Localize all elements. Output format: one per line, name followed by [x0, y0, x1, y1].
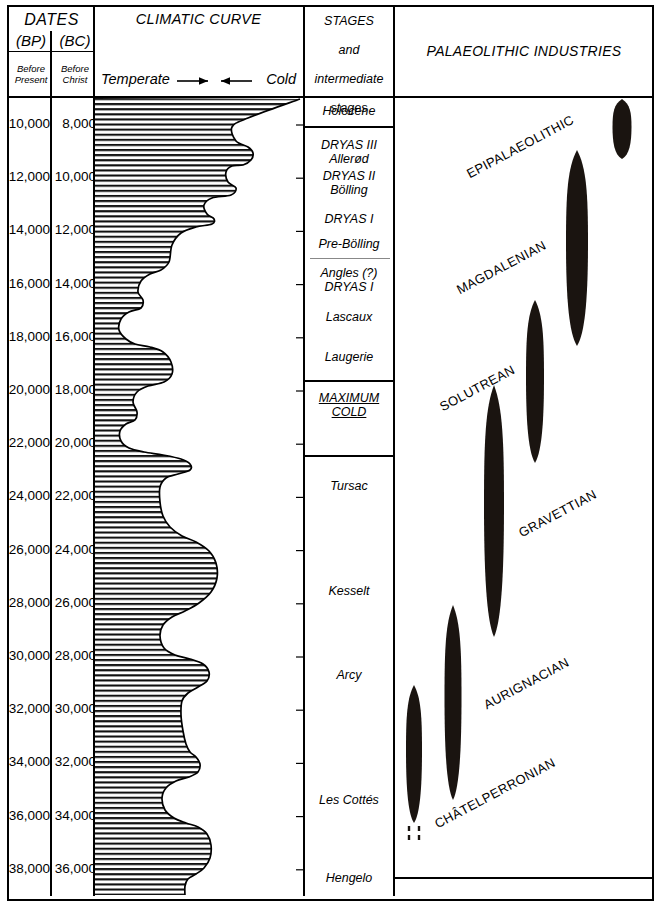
industry-spindle — [566, 150, 588, 346]
industry-spindle — [484, 385, 504, 637]
industry-spindle — [613, 99, 632, 159]
industry-spindles — [0, 0, 661, 909]
industry-spindle — [406, 685, 422, 823]
industry-spindle — [445, 605, 462, 800]
industry-spindle — [526, 300, 544, 463]
palaeolithic-chronology-chart: DATES (BP) (BC) Before Present Before Ch… — [0, 0, 661, 909]
